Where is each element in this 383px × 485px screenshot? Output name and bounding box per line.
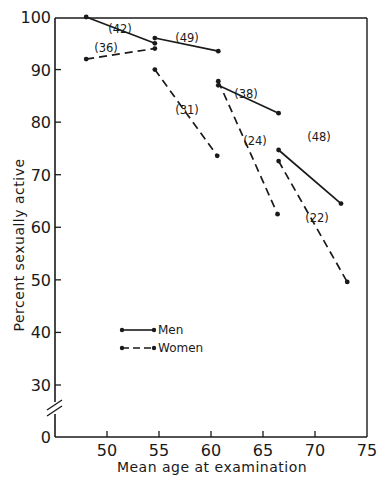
x-tick-label: 55 <box>149 441 169 460</box>
y-tick-label: 100 <box>20 8 51 27</box>
chart: 030405060708090100 505560657075 (42)(49)… <box>0 0 383 485</box>
legend-men-label: Men <box>158 323 183 337</box>
plot-frame <box>55 18 367 437</box>
segment-n-label: (24) <box>243 134 267 148</box>
y-tick-label: 70 <box>31 166 51 185</box>
y-tick-label: 80 <box>31 113 51 132</box>
data-point <box>84 57 89 62</box>
x-axis-ticks: 505560657075 <box>97 431 377 460</box>
segment-n-label: (22) <box>305 211 329 225</box>
segment-n-label: (48) <box>307 130 331 144</box>
series-men <box>84 15 344 206</box>
y-tick-label: 40 <box>31 323 51 342</box>
x-tick-label: 70 <box>305 441 325 460</box>
data-point <box>152 36 157 41</box>
y-axis-break-icon <box>47 400 62 416</box>
data-point <box>339 201 344 206</box>
data-point <box>276 159 281 164</box>
data-point <box>216 49 221 54</box>
data-point <box>345 280 350 285</box>
legend: Men Women <box>120 323 203 355</box>
data-point <box>216 79 221 84</box>
data-point <box>152 67 157 72</box>
data-point <box>276 111 281 116</box>
y-tick-label: 50 <box>31 271 51 290</box>
segment-n-label: (36) <box>94 41 118 55</box>
x-axis-title: Mean age at examination <box>117 459 307 475</box>
data-point <box>152 46 157 51</box>
legend-women-label: Women <box>158 341 203 355</box>
y-tick-label: 0 <box>41 428 51 447</box>
data-point <box>215 153 220 158</box>
segment-n-label: (31) <box>175 103 199 117</box>
x-tick-label: 65 <box>253 441 273 460</box>
y-axis-title: Percent sexually active <box>11 158 27 331</box>
data-point <box>84 15 89 20</box>
data-point <box>276 148 281 153</box>
y-tick-label: 30 <box>31 376 51 395</box>
x-tick-label: 75 <box>357 441 377 460</box>
x-tick-label: 60 <box>201 441 221 460</box>
y-tick-label: 60 <box>31 218 51 237</box>
data-point <box>275 212 280 217</box>
segment-n-label: (49) <box>175 31 199 45</box>
segment-n-label: (42) <box>108 22 132 36</box>
legend-women-marker <box>120 346 156 350</box>
series-women <box>84 46 350 284</box>
x-tick-label: 50 <box>97 441 117 460</box>
legend-men-marker <box>120 328 156 332</box>
y-tick-label: 90 <box>31 61 51 80</box>
data-point <box>152 41 157 46</box>
segment-n-label: (38) <box>234 87 258 101</box>
